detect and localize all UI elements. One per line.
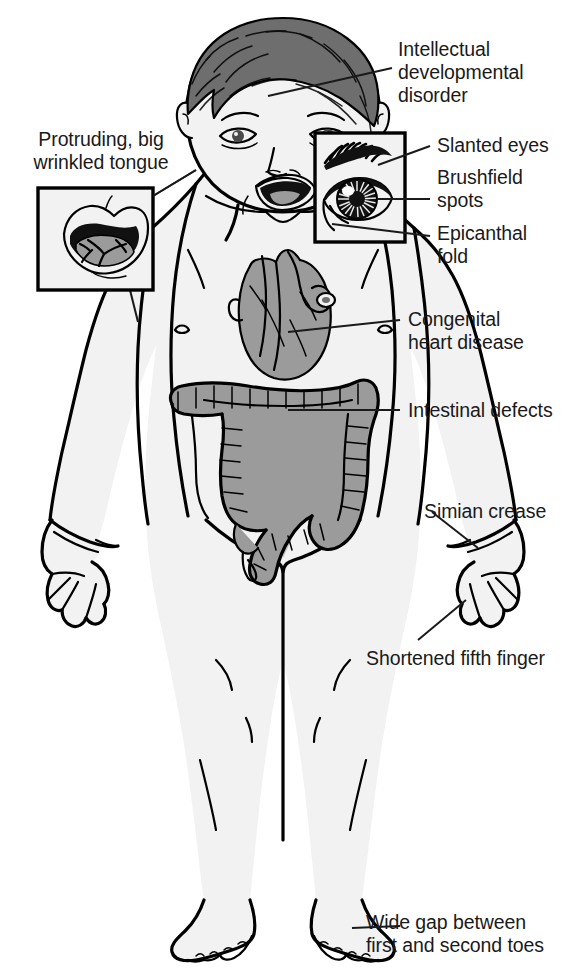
left-hand [42,516,118,626]
label-intellectual-developmental-disorder: Intellectual developmental disorder [398,38,524,107]
label-brushfield-spots: Brushfield spots [437,166,523,212]
label-slanted-eyes: Slanted eyes [437,134,549,157]
feet [172,900,395,962]
label-epicanthal-fold: Epicanthal fold [437,222,527,268]
label-simian-crease: Simian crease [424,500,546,523]
eye-detail-inset [315,133,405,242]
label-wide-gap-toes: Wide gap between first and second toes [366,911,544,957]
leader-fifth-finger [418,600,466,640]
label-shortened-fifth-finger: Shortened fifth finger [366,647,545,670]
down-syndrome-clinical-features-figure: .ol{fill:none;stroke:#000;stroke-width:3… [0,0,565,972]
label-intestinal-defects: Intestinal defects [408,399,553,422]
label-protruding-big-wrinkled-tongue: Protruding, big wrinkled tongue [16,128,186,174]
label-congenital-heart-disease: Congenital heart disease [408,308,524,354]
